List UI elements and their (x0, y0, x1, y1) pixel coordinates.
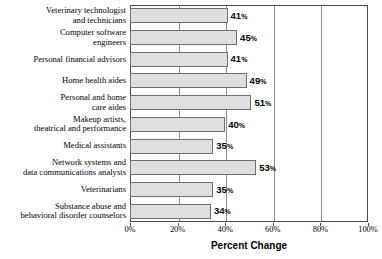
category-label: Medical assistants (0, 141, 126, 150)
bar-value-number: 35 (216, 141, 227, 151)
category-label-line: Personal financial advisors (0, 55, 126, 64)
bar-value-number: 51 (254, 98, 265, 108)
category-label: Computer softwareengineers (0, 28, 126, 47)
x-tick-label: 60% (265, 225, 280, 234)
bar-row: 45% (130, 27, 368, 49)
bar-value-number: 45 (240, 33, 251, 43)
bar-value-number: 41 (231, 11, 242, 21)
bar-value-number: 35 (216, 185, 227, 195)
category-label-line: and technicians (0, 16, 126, 25)
bar-row: 35% (130, 179, 368, 201)
category-labels: Veterinary technologistand techniciansCo… (0, 5, 128, 222)
percent-sign: % (241, 13, 247, 20)
bar-value-label: 40% (228, 120, 245, 130)
category-label: Veterinarians (0, 185, 126, 194)
x-tick-label: 100% (358, 225, 378, 234)
bar (130, 73, 247, 88)
category-label: Substance abuse andbehavioral disorder c… (0, 202, 126, 221)
bar (130, 52, 228, 67)
bar-value-label: 51% (254, 98, 271, 108)
percent-sign: % (265, 100, 271, 107)
bar (130, 117, 225, 132)
bar-value-label: 41% (231, 54, 248, 64)
bar-value-label: 34% (214, 206, 231, 216)
bar-value-label: 45% (240, 33, 257, 43)
bar (130, 30, 237, 45)
bar-row: 34% (130, 200, 368, 222)
bar-value-number: 49 (250, 76, 261, 86)
x-tick-label: 40% (218, 225, 233, 234)
bar-value-number: 40 (228, 120, 239, 130)
bar-row: 53% (130, 157, 368, 179)
bar-row: 35% (130, 135, 368, 157)
category-label: Home health aides (0, 76, 126, 85)
bar-value-label: 49% (250, 76, 267, 86)
bar-row: 51% (130, 92, 368, 114)
bar (130, 8, 228, 23)
category-label-line: engineers (0, 38, 126, 47)
bar-row: 49% (130, 70, 368, 92)
bar-value-label: 35% (216, 185, 233, 195)
category-label-line: Veterinarians (0, 185, 126, 194)
bar-row: 41% (130, 48, 368, 70)
category-label-line: Home health aides (0, 76, 126, 85)
category-label-line: Medical assistants (0, 141, 126, 150)
percent-sign: % (227, 143, 233, 150)
percent-sign: % (227, 187, 233, 194)
percent-sign: % (239, 122, 245, 129)
bar-value-label: 35% (216, 141, 233, 151)
bar-value-number: 53 (259, 163, 270, 173)
x-axis: 0%20%40%60%80%100% (130, 223, 368, 237)
category-label-line: behavioral disorder counselors (0, 211, 126, 220)
bar (130, 204, 211, 219)
bar-chart: 41%45%41%49%51%40%35%53%35%34% Veterinar… (0, 0, 382, 259)
category-label-line: theatrical and performance (0, 124, 126, 133)
category-label: Network systems anddata communications a… (0, 158, 126, 177)
bar-row: 41% (130, 5, 368, 27)
bar-value-number: 41 (231, 54, 242, 64)
category-label: Veterinary technologistand technicians (0, 6, 126, 25)
bar-value-label: 41% (231, 11, 248, 21)
bar-value-number: 34 (214, 206, 225, 216)
category-label: Makeup artists,theatrical and performanc… (0, 115, 126, 134)
x-tick-label: 20% (170, 225, 185, 234)
x-tick-label: 80% (313, 225, 328, 234)
percent-sign: % (251, 35, 257, 42)
x-tick-label: 0% (124, 225, 135, 234)
percent-sign: % (270, 165, 276, 172)
bar (130, 182, 213, 197)
percent-sign: % (241, 56, 247, 63)
bar (130, 95, 251, 110)
category-label: Personal and homecare aides (0, 93, 126, 112)
bars-layer: 41%45%41%49%51%40%35%53%35%34% (130, 5, 368, 222)
category-label: Personal financial advisors (0, 55, 126, 64)
category-label-line: data communications analysts (0, 168, 126, 177)
percent-sign: % (260, 78, 266, 85)
bar-row: 40% (130, 114, 368, 136)
category-label-line: care aides (0, 103, 126, 112)
bar (130, 160, 256, 175)
bar-value-label: 53% (259, 163, 276, 173)
x-axis-title: Percent Change (130, 240, 368, 251)
percent-sign: % (224, 208, 230, 215)
bar (130, 139, 213, 154)
